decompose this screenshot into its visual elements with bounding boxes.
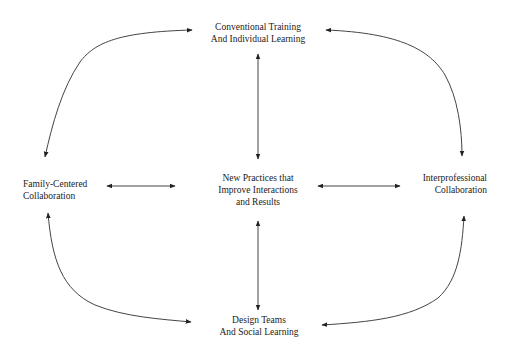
node-line: And Individual Learning [190, 33, 326, 45]
arrow-right-bottom-curve [322, 216, 464, 325]
node-line: Collaboration [405, 184, 487, 196]
node-line: Family-Centered [23, 178, 87, 190]
diagram-canvas: Conventional Training And Individual Lea… [0, 0, 508, 351]
node-design-teams: Design Teams And Social Learning [198, 314, 320, 338]
node-line: and Results [198, 196, 318, 208]
node-conventional-training: Conventional Training And Individual Lea… [190, 21, 326, 45]
node-family-centered: Family-Centered Collaboration [23, 178, 87, 202]
node-line: Interprofessional [405, 172, 487, 184]
node-line: And Social Learning [198, 326, 320, 338]
node-line: Collaboration [23, 190, 87, 202]
node-interprofessional: Interprofessional Collaboration [405, 172, 487, 196]
arrow-left-bottom-curve [48, 213, 191, 322]
arrow-top-right-curve [326, 30, 462, 156]
node-new-practices: New Practices that Improve Interactions … [198, 172, 318, 208]
node-line: New Practices that [198, 172, 318, 184]
node-line: Conventional Training [190, 21, 326, 33]
arrow-top-left-curve [45, 30, 192, 157]
node-line: Design Teams [198, 314, 320, 326]
node-line: Improve Interactions [198, 184, 318, 196]
